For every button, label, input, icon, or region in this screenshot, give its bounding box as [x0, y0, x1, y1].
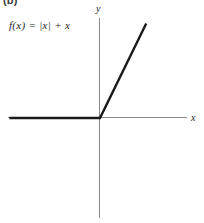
function-curve: [0, 0, 204, 223]
function-graph-figure: (b) f(x) = |x| + x y x: [0, 0, 204, 223]
curve-polyline: [9, 24, 146, 118]
